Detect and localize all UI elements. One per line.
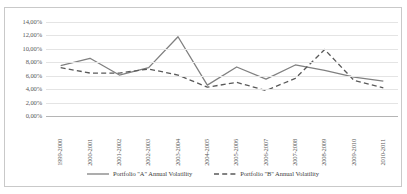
y-axis-tick-label: 2,00%: [26, 99, 42, 106]
x-axis-tick-label: 2004-2005: [202, 120, 212, 166]
y-axis-tick-label: 6,00%: [26, 72, 42, 79]
series-line-b: [61, 50, 384, 91]
x-axis-tick-label: 2007-2008: [290, 120, 300, 166]
plot-area: [46, 22, 398, 116]
y-axis-tick-label: 0,00%: [26, 113, 42, 120]
x-axis-tick-label: 2000-2001: [85, 120, 95, 166]
y-axis-tick-label: 10,00%: [23, 46, 42, 53]
plot-wrapper: 14,00%12,00%10,00%8,00%6,00%4,00%2,00%0,…: [5, 8, 401, 186]
legend-line-swatch-solid-icon: [87, 171, 109, 177]
x-axis-tick-text: 2008-2009: [321, 139, 328, 166]
y-axis: 14,00%12,00%10,00%8,00%6,00%4,00%2,00%0,…: [5, 8, 45, 120]
gridline: [46, 49, 398, 50]
legend-line-swatch-dashed-icon: [214, 171, 236, 177]
y-axis-tick-label: 14,00%: [23, 19, 42, 26]
x-axis-tick-label: 2009-2010: [349, 120, 359, 166]
gridline: [46, 35, 398, 36]
x-axis-tick-label: 2006-2007: [261, 120, 271, 166]
legend-item-a[interactable]: Portfolio "A" Annual Volatility: [87, 171, 192, 178]
chart-container: 14,00%12,00%10,00%8,00%6,00%4,00%2,00%0,…: [4, 7, 402, 187]
x-axis-tick-label: 2001-2002: [114, 120, 124, 166]
x-axis-tick-text: 2004-2005: [204, 139, 211, 166]
x-axis-tick-label: 2008-2009: [320, 120, 330, 166]
x-axis-tick-text: 2000-2001: [87, 139, 94, 166]
y-axis-tick-label: 12,00%: [23, 32, 42, 39]
x-axis-tick-text: 2002-2003: [145, 139, 152, 166]
x-axis-tick-label: 2003-2004: [173, 120, 183, 166]
x-axis-tick-text: 2007-2008: [292, 139, 299, 166]
gridline: [46, 76, 398, 77]
x-axis-tick-text: 2010-2011: [380, 139, 387, 166]
x-axis-tick-text: 2009-2010: [351, 139, 358, 166]
x-axis-tick-text: 1999-2000: [57, 139, 64, 166]
gridline: [46, 22, 398, 23]
x-axis-tick-text: 2003-2004: [175, 139, 182, 166]
y-axis-tick-label: 8,00%: [26, 59, 42, 66]
chart-legend: Portfolio "A" Annual VolatilityPortfolio…: [5, 167, 401, 181]
axis-baseline: [46, 116, 398, 117]
x-axis-tick-label: 2005-2006: [232, 120, 242, 166]
legend-item-b[interactable]: Portfolio "B" Annual Volatility: [214, 171, 319, 178]
legend-label: Portfolio "B" Annual Volatility: [240, 171, 319, 178]
x-axis: 1999-20002000-20012001-20022002-20032003…: [46, 118, 398, 166]
x-axis-tick-text: 2005-2006: [233, 139, 240, 166]
x-axis-tick-label: 2002-2003: [144, 120, 154, 166]
gridline: [46, 103, 398, 104]
x-axis-tick-label: 1999-2000: [56, 120, 66, 166]
gridline: [46, 89, 398, 90]
legend-label: Portfolio "A" Annual Volatility: [113, 171, 192, 178]
x-axis-tick-text: 2001-2002: [116, 139, 123, 166]
y-axis-tick-label: 4,00%: [26, 86, 42, 93]
x-axis-tick-label: 2010-2011: [378, 120, 388, 166]
gridline: [46, 62, 398, 63]
x-axis-tick-text: 2006-2007: [263, 139, 270, 166]
